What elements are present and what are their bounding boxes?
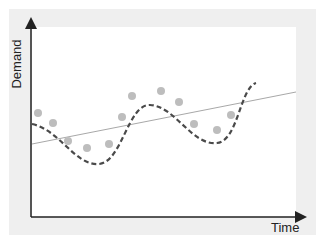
data-point xyxy=(157,87,165,95)
data-point xyxy=(128,92,136,100)
chart-canvas xyxy=(0,0,322,246)
data-point xyxy=(213,126,221,134)
data-point xyxy=(105,140,113,148)
y-axis-label: Demand xyxy=(6,34,26,94)
data-point xyxy=(175,98,183,106)
data-point xyxy=(190,120,198,128)
data-point xyxy=(118,113,126,121)
data-point xyxy=(83,144,91,152)
data-point xyxy=(34,109,42,117)
cyclical-curve xyxy=(32,83,256,164)
data-point xyxy=(49,119,57,127)
y-axis-label-text: Demand xyxy=(9,39,24,88)
data-point xyxy=(227,111,235,119)
trend-line xyxy=(32,92,296,144)
x-axis-label: Time xyxy=(271,220,299,235)
data-point xyxy=(64,137,72,145)
